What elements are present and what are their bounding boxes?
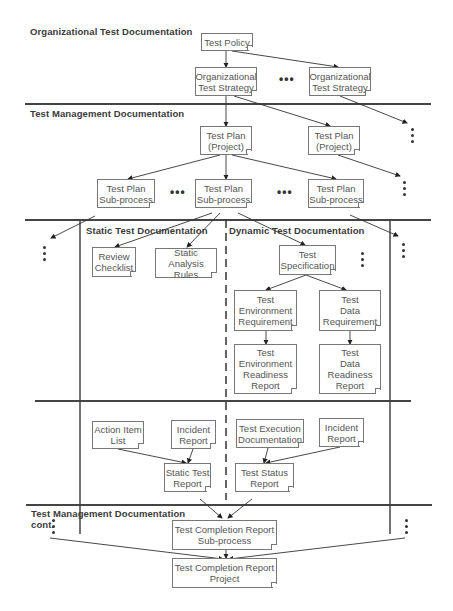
- ellipsis-icon: •••: [170, 185, 186, 199]
- box-test-policy: Test Policy: [201, 33, 253, 51]
- box-test-completion-report-project: Test Completion Report Project: [172, 558, 277, 588]
- box-test-plan-subprocess-3: Test Plan Sub-process: [308, 179, 364, 208]
- ellipsis-icon: •••: [279, 72, 295, 86]
- box-org-strategy-2: Organizational Test Strategy: [309, 67, 371, 96]
- box-test-environment-requirement: Test Environment Requirement: [234, 290, 297, 331]
- vertical-ellipsis-icon: [43, 246, 46, 264]
- box-test-plan-subprocess-1: Test Plan Sub-process: [97, 179, 155, 208]
- box-action-item-list: Action Item List: [92, 421, 144, 449]
- vertical-ellipsis-icon: [361, 252, 364, 270]
- box-static-analysis-rules: Static Analysis Rules: [155, 248, 217, 278]
- vertical-ellipsis-icon: [403, 181, 406, 199]
- box-test-plan-subprocess-2: Test Plan Sub-process: [195, 179, 252, 208]
- box-test-plan-project-1: Test Plan (Project): [200, 126, 252, 155]
- box-test-status-report: Test Status Report: [235, 463, 294, 492]
- ellipsis-icon: •••: [277, 185, 293, 199]
- box-incident-report-dynamic: Incident Report: [319, 418, 364, 447]
- box-test-execution-documentation: Test Execution Documentation: [236, 419, 304, 448]
- box-org-strategy-1: Organizational Test Strategy: [195, 67, 257, 96]
- vertical-ellipsis-icon: [52, 519, 55, 537]
- box-test-specification: Test Specification: [279, 245, 336, 275]
- box-test-data-requirement: Test Data Requirement: [319, 290, 381, 331]
- box-incident-report-static: Incident Report: [171, 420, 216, 449]
- box-static-test-report: Static Test Report: [164, 463, 211, 492]
- box-test-data-readiness-report: Test Data Readiness Report: [319, 344, 381, 394]
- box-test-environment-readiness-report: Test Environment Readiness Report: [234, 344, 297, 394]
- section-static-heading: Static Test Documentation: [86, 225, 208, 236]
- box-test-completion-report-subprocess: Test Completion Report Sub-process: [172, 520, 277, 550]
- section-dynamic-heading: Dynamic Test Documentation: [229, 225, 364, 236]
- section-management-heading: Test Management Documentation: [30, 108, 184, 119]
- section-organizational-heading: Organizational Test Documentation: [30, 26, 193, 37]
- box-review-checklist: Review Checklist: [92, 247, 136, 277]
- vertical-ellipsis-icon: [402, 243, 405, 261]
- box-test-plan-project-2: Test Plan (Project): [308, 126, 360, 155]
- vertical-ellipsis-icon: [411, 128, 414, 146]
- vertical-ellipsis-icon: [405, 519, 408, 537]
